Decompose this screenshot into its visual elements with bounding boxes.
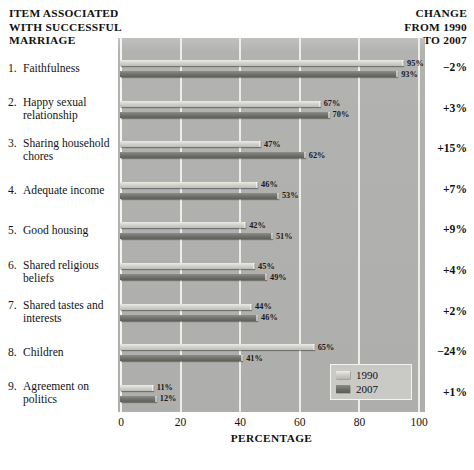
bar-1990-row-7	[120, 304, 251, 310]
change-value-row-1: −2%	[407, 62, 467, 74]
bar-2007-row-7	[120, 315, 257, 321]
item-text-6: Shared religious beliefs	[23, 259, 116, 285]
item-label-2: 2.Happy sexual relationship	[8, 96, 116, 122]
axis-tick-80: 80	[339, 416, 379, 428]
bar-value-2007-row-3: 62%	[309, 152, 326, 160]
item-label-8: 8.Children	[8, 346, 116, 359]
item-label-7: 7.Shared tastes and interests	[8, 299, 116, 325]
change-value-row-4: +7%	[407, 184, 467, 196]
item-text-4: Adequate income	[23, 184, 116, 197]
chart-title-left-line-1: ITEM ASSOCIATED	[9, 7, 159, 21]
bar-value-2007-row-9: 12%	[160, 395, 177, 403]
bar-value-1990-row-4: 46%	[261, 181, 278, 189]
legend-swatch-2007	[336, 385, 350, 393]
item-number-3: 3.	[8, 137, 22, 150]
axis-tick-60: 60	[280, 416, 320, 428]
item-label-9: 9.Agreement on politics	[8, 380, 116, 406]
change-value-row-3: +15%	[407, 143, 467, 155]
axis-tick-40: 40	[220, 416, 260, 428]
chart-legend: 1990 2007	[330, 364, 412, 400]
bar-end-cap	[319, 101, 321, 107]
bar-end-cap	[152, 385, 154, 391]
bar-end-cap	[250, 304, 252, 310]
item-label-3: 3.Sharing household chores	[8, 137, 116, 163]
item-text-1: Faithfulness	[23, 62, 116, 75]
bar-value-1990-row-3: 47%	[264, 141, 281, 149]
item-text-8: Children	[23, 346, 116, 359]
bar-1990-row-1	[120, 60, 403, 66]
item-text-5: Good housing	[23, 224, 116, 237]
bar-value-1990-row-9: 11%	[157, 384, 173, 392]
item-number-4: 4.	[8, 184, 22, 197]
item-number-7: 7.	[8, 299, 22, 312]
bar-end-cap	[277, 193, 279, 199]
bar-end-cap	[253, 263, 255, 269]
item-number-5: 5.	[8, 224, 22, 237]
bar-2007-row-6	[120, 274, 266, 280]
change-column-title-line-2: FROM 1990	[337, 21, 467, 35]
bar-end-cap	[328, 112, 330, 118]
chart-figure: ITEM ASSOCIATED WITH SUCCESSFUL MARRIAGE…	[0, 0, 474, 470]
plot-area: 95%93%67%70%47%62%46%53%42%51%45%49%44%4…	[118, 38, 425, 412]
change-value-row-8: −24%	[407, 346, 467, 358]
bar-1990-row-5	[120, 222, 245, 228]
change-value-row-2: +3%	[407, 103, 467, 115]
item-text-7: Shared tastes and interests	[23, 299, 116, 325]
change-value-row-9: +1%	[407, 387, 467, 399]
bar-value-1990-row-5: 42%	[249, 222, 266, 230]
gridline-80	[358, 38, 360, 412]
bar-value-2007-row-5: 51%	[276, 233, 293, 241]
bar-end-cap	[256, 315, 258, 321]
bar-2007-row-8	[120, 355, 242, 361]
item-number-2: 2.	[8, 96, 22, 109]
gridline-60	[299, 38, 301, 412]
change-column-title-line-1: CHANGE	[337, 7, 467, 21]
bar-end-cap	[402, 60, 404, 66]
bar-end-cap	[259, 141, 261, 147]
bar-value-2007-row-2: 70%	[333, 111, 350, 119]
bar-1990-row-3	[120, 141, 260, 147]
bar-2007-row-9	[120, 396, 156, 402]
legend-item-1990: 1990	[336, 368, 407, 382]
change-value-row-6: +4%	[407, 265, 467, 277]
bar-end-cap	[256, 182, 258, 188]
item-number-1: 1.	[8, 62, 22, 75]
bar-2007-row-5	[120, 233, 272, 239]
bar-2007-row-4	[120, 193, 278, 199]
axis-tick-20: 20	[161, 416, 201, 428]
axis-title: PERCENTAGE	[118, 432, 425, 444]
bar-end-cap	[396, 71, 398, 77]
bar-value-2007-row-8: 41%	[246, 355, 263, 363]
item-number-6: 6.	[8, 259, 22, 272]
change-value-row-7: +2%	[407, 306, 467, 318]
bar-end-cap	[265, 274, 267, 280]
bar-1990-row-9	[120, 385, 153, 391]
item-text-2: Happy sexual relationship	[23, 96, 116, 122]
bar-value-1990-row-7: 44%	[255, 303, 272, 311]
bar-value-1990-row-6: 45%	[258, 263, 275, 271]
chart-title-left-line-2: WITH SUCCESSFUL	[9, 21, 159, 35]
item-label-1: 1.Faithfulness	[8, 62, 116, 75]
bar-1990-row-6	[120, 263, 254, 269]
legend-label-1990: 1990	[356, 369, 378, 381]
bar-value-1990-row-8: 65%	[318, 344, 335, 352]
bar-end-cap	[304, 152, 306, 158]
bar-end-cap	[271, 233, 273, 239]
bar-2007-row-1	[120, 71, 397, 77]
legend-label-2007: 2007	[356, 383, 378, 395]
bar-2007-row-3	[120, 152, 305, 158]
bar-value-2007-row-7: 46%	[261, 314, 278, 322]
bar-1990-row-4	[120, 182, 257, 188]
bar-end-cap	[244, 222, 246, 228]
legend-swatch-1990	[336, 371, 350, 379]
bar-value-2007-row-6: 49%	[270, 274, 287, 282]
change-value-row-5: +9%	[407, 224, 467, 236]
item-text-9: Agreement on politics	[23, 380, 116, 406]
bar-1990-row-8	[120, 344, 314, 350]
item-label-6: 6.Shared religious beliefs	[8, 259, 116, 285]
bar-end-cap	[241, 355, 243, 361]
item-label-4: 4.Adequate income	[8, 184, 116, 197]
axis-tick-100: 100	[399, 416, 439, 428]
bar-end-cap	[155, 396, 157, 402]
bar-1990-row-2	[120, 101, 320, 107]
